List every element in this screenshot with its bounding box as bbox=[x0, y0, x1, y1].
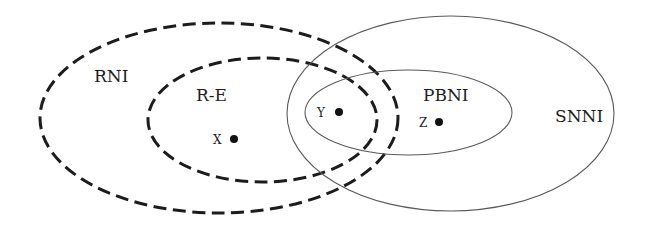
set-snni-label: SNNI bbox=[555, 106, 603, 126]
set-pbni-label: PBNI bbox=[423, 85, 469, 105]
set-rni-label: RNI bbox=[94, 66, 128, 86]
point-x-dot bbox=[230, 135, 238, 143]
point-x-label: X bbox=[213, 133, 222, 147]
set-rni-boundary bbox=[40, 23, 398, 213]
venn-diagram: RNI R-E PBNI SNNI X Y Z bbox=[0, 0, 650, 227]
set-re-boundary bbox=[148, 58, 377, 182]
point-y-label: Y bbox=[316, 106, 326, 120]
point-z-label: Z bbox=[419, 116, 427, 130]
point-y-dot bbox=[335, 108, 343, 116]
point-z-dot bbox=[435, 118, 443, 126]
set-re-label: R-E bbox=[196, 85, 227, 105]
